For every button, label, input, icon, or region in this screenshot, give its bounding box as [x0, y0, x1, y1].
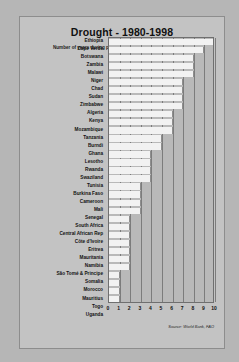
category-axis: EthiopiaCape VerdeBotswanaZambiaMalawiNi… [20, 37, 106, 303]
category-label: Malawi [20, 69, 106, 77]
bar [109, 167, 151, 173]
bar [109, 63, 194, 69]
bar [109, 288, 120, 294]
bar-row [109, 159, 213, 167]
bar [109, 79, 183, 85]
x-tick-label: 10 [211, 305, 217, 311]
category-label: Uganda [20, 311, 106, 319]
bar [109, 127, 173, 133]
category-label: Namibia [20, 262, 106, 270]
bars-container [108, 37, 214, 303]
x-tick-label: 0 [107, 305, 110, 311]
bar-row [109, 296, 213, 304]
bar-row [109, 191, 213, 199]
x-tick-label: 9 [202, 305, 205, 311]
bar-row [109, 287, 213, 295]
bar [109, 119, 173, 125]
bar-row [109, 143, 213, 151]
bar [109, 256, 130, 262]
category-label: Côte d'Ivoire [20, 238, 106, 246]
bar [109, 175, 151, 181]
bar [109, 143, 162, 149]
bar-row [109, 62, 213, 70]
x-tick-label: 3 [138, 305, 141, 311]
bar-row [109, 223, 213, 231]
bar-row [109, 207, 213, 215]
bar-row [109, 271, 213, 279]
bar [109, 103, 183, 109]
category-label: Tanzania [20, 134, 106, 142]
category-label: Rwanda [20, 166, 106, 174]
x-tick-label: 4 [149, 305, 152, 311]
bar [109, 183, 141, 189]
bar-row [109, 215, 213, 223]
bar-row [109, 255, 213, 263]
category-label: Swaziland [20, 174, 106, 182]
bar-row [109, 70, 213, 78]
bar [109, 272, 120, 278]
bar-row [109, 102, 213, 110]
chart-card: Drought - 1980-1998 Number of years duri… [19, 16, 225, 349]
category-label: Somalia [20, 278, 106, 286]
category-label: Kenya [20, 117, 106, 125]
category-label: Mozambique [20, 126, 106, 134]
bar [109, 151, 151, 157]
category-label: Mali [20, 206, 106, 214]
bar [109, 280, 120, 286]
category-label: Burndi [20, 142, 106, 150]
source-note: Source: World Bank, FAO [168, 324, 214, 329]
bar [109, 264, 130, 270]
bar [109, 47, 204, 53]
bar [109, 135, 162, 141]
bar-row [109, 239, 213, 247]
bar-row [109, 247, 213, 255]
category-label: Cameroon [20, 198, 106, 206]
bar [109, 159, 151, 165]
category-label: Zimbabwe [20, 101, 106, 109]
bar [109, 95, 183, 101]
category-label: Mauritania [20, 254, 106, 262]
bar [109, 232, 130, 238]
category-label: Zambia [20, 61, 106, 69]
x-tick-label: 1 [117, 305, 120, 311]
bar [109, 208, 141, 214]
bar [109, 200, 141, 206]
bar [109, 55, 194, 61]
bar-row [109, 38, 213, 46]
x-tick-label: 6 [170, 305, 173, 311]
bar-row [109, 54, 213, 62]
category-label: Tunisia [20, 182, 106, 190]
category-label: Algeria [20, 109, 106, 117]
bar-row [109, 151, 213, 159]
bar-row [109, 279, 213, 287]
bar-row [109, 231, 213, 239]
bar [109, 240, 130, 246]
bar-row [109, 199, 213, 207]
bar-row [109, 94, 213, 102]
bar [109, 111, 173, 117]
category-label: Togo [20, 303, 106, 311]
gridline [215, 38, 216, 302]
category-label: South Africa [20, 222, 106, 230]
bar-row [109, 175, 213, 183]
x-tick-label: 8 [191, 305, 194, 311]
bar-row [109, 118, 213, 126]
x-tick-label: 2 [128, 305, 131, 311]
category-label: Sudan [20, 93, 106, 101]
category-label: Eritrea [20, 246, 106, 254]
value-axis: 012345678910 [108, 305, 214, 315]
bar [109, 248, 130, 254]
bar-row [109, 86, 213, 94]
category-label: Niger [20, 77, 106, 85]
bar-row [109, 183, 213, 191]
bar [109, 191, 141, 197]
category-label: Lesotho [20, 158, 106, 166]
category-label: Central African Rep [20, 230, 106, 238]
bar [109, 87, 183, 93]
bar-row [109, 110, 213, 118]
x-tick-label: 7 [181, 305, 184, 311]
bar-row [109, 127, 213, 135]
bar-row [109, 46, 213, 54]
bar-row [109, 167, 213, 175]
bar [109, 71, 194, 77]
